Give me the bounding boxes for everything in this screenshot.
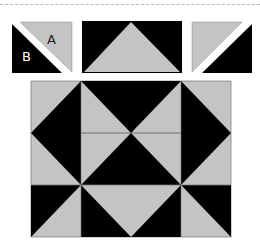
label-a: A <box>47 33 56 46</box>
label-b: B <box>22 50 31 63</box>
piece-1-hst <box>12 22 72 73</box>
quilt-diagram <box>0 0 260 251</box>
piece-3-hst <box>192 22 252 73</box>
piece-2-flying-geese <box>82 21 182 73</box>
assembled-block <box>31 81 231 237</box>
